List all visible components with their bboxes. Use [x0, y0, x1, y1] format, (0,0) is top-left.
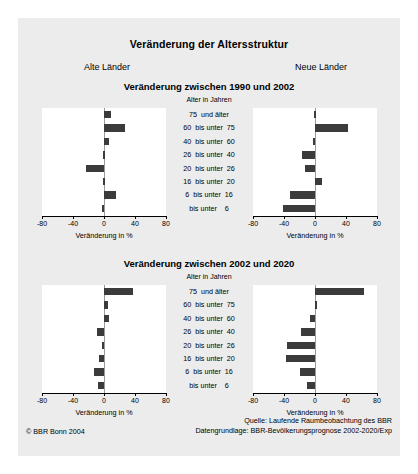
axis-tick-label: 0: [313, 397, 317, 404]
bar: [283, 205, 315, 212]
chart-plot-alte-laender-1990-2002: [42, 108, 166, 216]
axis-tick-label: 0: [313, 220, 317, 227]
axis-tick: [166, 393, 167, 396]
bar: [94, 368, 104, 375]
region-label-left: Alte Länder: [84, 62, 130, 72]
axis-tick-label: 80: [162, 220, 170, 227]
axis-tick-label: 0: [102, 397, 106, 404]
axis-tick: [104, 393, 105, 396]
category-label: 75 und älter: [163, 285, 255, 298]
category-label: 20 bis unter 26: [163, 162, 255, 175]
category-label: 75 und älter: [163, 108, 255, 121]
category-label: 6 bis unter 16: [163, 365, 255, 378]
category-labels-2: 75 und älter60 bis unter 7540 bis unter …: [163, 285, 255, 393]
category-labels-1: 75 und älter60 bis unter 7540 bis unter …: [163, 108, 255, 216]
axis-tick-label: 40: [131, 220, 139, 227]
bar: [314, 111, 315, 118]
axis-tick-label: -80: [248, 397, 258, 404]
panel-title-2: Veränderung zwischen 2002 und 2020: [18, 258, 400, 269]
axis-tick: [377, 393, 378, 396]
bar: [315, 124, 348, 131]
source-line-2: Datengrundlage: BBR-Bevölkerungsprognose…: [195, 426, 392, 436]
category-label: 40 bis unter 60: [163, 312, 255, 325]
page-title: Veränderung der Altersstruktur: [18, 38, 400, 50]
bar: [300, 368, 316, 375]
bar: [315, 301, 317, 308]
bar: [104, 288, 133, 295]
axis-tick-label: -40: [68, 220, 78, 227]
axis-tick-label: -80: [37, 220, 47, 227]
axis-tick: [346, 393, 347, 396]
axis-tick: [315, 216, 316, 219]
bar: [315, 178, 322, 185]
bar: [305, 165, 315, 172]
category-label: 60 bis unter 75: [163, 298, 255, 311]
axis-tick: [135, 216, 136, 219]
panel-title-1: Veränderung zwischen 1990 und 2002: [18, 81, 400, 92]
axis-tick-label: 40: [342, 220, 350, 227]
axis-tick-label: -40: [279, 397, 289, 404]
axis-tick: [73, 393, 74, 396]
chart-plot-neue-laender-2002-2020: [253, 285, 377, 393]
bar: [98, 382, 104, 389]
bar: [102, 342, 104, 349]
category-label: 20 bis unter 26: [163, 339, 255, 352]
axis-tick-label: -80: [37, 397, 47, 404]
age-axis-head-2: Alter in Jahren: [18, 273, 400, 280]
bar: [104, 301, 108, 308]
x-axis-2-left: -80-4004080Veränderung in %: [42, 393, 166, 419]
axis-tick-label: 80: [373, 220, 381, 227]
x-axis-1-right: -80-4004080Veränderung in %: [253, 216, 377, 242]
axis-tick-label: 80: [373, 397, 381, 404]
axis-title: Veränderung in %: [42, 231, 166, 240]
axis-title: Veränderung in %: [42, 408, 166, 417]
axis-tick: [346, 216, 347, 219]
bar: [315, 288, 364, 295]
region-label-right: Neue Länder: [295, 62, 347, 72]
bar: [287, 342, 315, 349]
bar: [104, 315, 109, 322]
category-label: 16 bis unter 20: [163, 352, 255, 365]
axis-tick-label: 40: [342, 397, 350, 404]
axis-tick: [135, 393, 136, 396]
bar: [302, 151, 315, 158]
category-label: 60 bis unter 75: [163, 121, 255, 134]
bar: [313, 138, 315, 145]
bar: [104, 124, 125, 131]
axis-tick: [42, 393, 43, 396]
copyright-text: © BBR Bonn 2004: [26, 427, 85, 436]
axis-tick: [284, 393, 285, 396]
category-label: 26 bis unter 40: [163, 325, 255, 338]
axis-tick-label: -40: [279, 220, 289, 227]
bar: [102, 205, 104, 212]
bar: [97, 328, 104, 335]
category-label: 6 bis unter 16: [163, 188, 255, 201]
bar: [99, 355, 104, 362]
bar: [103, 151, 104, 158]
axis-tick: [253, 393, 254, 396]
axis-title: Veränderung in %: [253, 231, 377, 240]
axis-tick: [73, 216, 74, 219]
bar: [290, 191, 315, 198]
axis-tick-label: 80: [162, 397, 170, 404]
source-line-1: Quelle: Laufende Raumbeobachtung des BBR: [195, 416, 392, 426]
axis-tick: [42, 216, 43, 219]
axis-tick: [104, 216, 105, 219]
category-label: bis unter 6: [163, 379, 255, 392]
age-axis-head-1: Alter in Jahren: [18, 96, 400, 103]
bar: [103, 178, 104, 185]
axis-tick-label: 40: [131, 397, 139, 404]
axis-tick-label: 0: [102, 220, 106, 227]
axis-tick-label: -80: [248, 220, 258, 227]
axis-tick: [253, 216, 254, 219]
bar: [104, 138, 109, 145]
axis-tick: [284, 216, 285, 219]
bar: [86, 165, 104, 172]
category-label: 40 bis unter 60: [163, 135, 255, 148]
bar: [286, 355, 315, 362]
bar: [104, 111, 111, 118]
figure-panel: Veränderung der Altersstruktur Alte Länd…: [18, 18, 400, 456]
bar: [307, 382, 315, 389]
source-text: Quelle: Laufende Raumbeobachtung des BBR…: [195, 416, 392, 436]
bar: [310, 315, 315, 322]
